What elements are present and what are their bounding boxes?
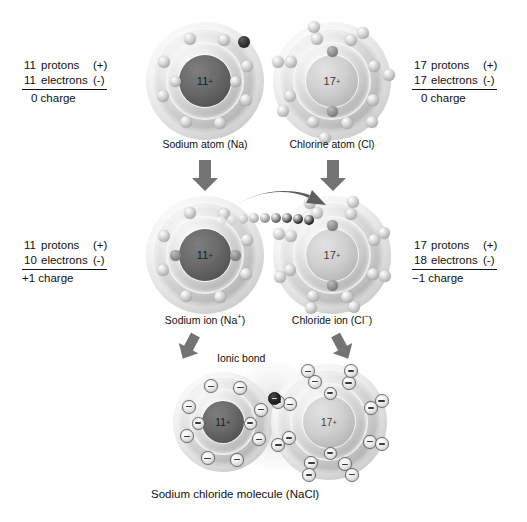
sodium-ion-electrons-sign: (-) [93, 253, 105, 268]
sodium-atom-protons-word: protons [41, 58, 93, 73]
sodium-atom-caption: Sodium atom (Na) [135, 138, 275, 150]
chlorine-atom-protons-count: 17 [414, 58, 431, 73]
electron-transfer-arrow [222, 186, 332, 226]
electron [272, 56, 284, 68]
sodium-ion-protons-count: 11 [24, 238, 41, 253]
electron [192, 417, 205, 430]
chlorine-atom-protons-word: protons [431, 58, 483, 73]
electron [342, 376, 356, 390]
electron [230, 250, 241, 261]
electron [241, 234, 253, 246]
electron [182, 400, 196, 414]
sodium-nucleus: 11+ [179, 55, 231, 107]
chloride-ion-charge: −1 charge [412, 270, 497, 286]
electron [357, 27, 369, 39]
chloride-ion-electrons-count: 18 [414, 253, 431, 268]
sodium-atom-stats: 11 protons (+) 11 electrons (-) 0 charge [22, 58, 107, 106]
sodium-atom-protons-count: 11 [24, 58, 41, 73]
transferred-electron [268, 392, 281, 405]
electron [170, 250, 181, 261]
chlorine-atom-charge: 0 charge [412, 90, 497, 106]
chlorine-nucleus-number: 17 [323, 75, 336, 87]
diagram-canvas: 11 protons (+) 11 electrons (-) 0 charge… [0, 0, 527, 522]
sodium-ion-caption: Sodium ion (Na+) [135, 312, 275, 326]
sodium-ion-nucleus: 11+ [179, 229, 231, 281]
electron [201, 451, 215, 465]
electron [307, 116, 319, 128]
electron [378, 227, 390, 239]
sodium-atom-protons-sign: (+) [93, 58, 107, 73]
electron [184, 207, 196, 219]
electron [240, 94, 252, 106]
chlorine-atom-electrons-word: electrons [431, 73, 483, 88]
electron [230, 453, 244, 467]
electron [327, 46, 338, 57]
electron [367, 94, 379, 106]
chloride-ion-caption: Chloride ion (Cl−) [262, 312, 402, 326]
electron [238, 36, 250, 48]
chloride-ion-electrons-word: electrons [431, 253, 483, 268]
electron [240, 268, 252, 280]
molecule-caption: Sodium chloride molecule (NaCl) [151, 488, 319, 500]
chloride-ion-nucleus: 17+ [306, 229, 358, 281]
chlorine-atom-electrons-sign: (-) [483, 73, 495, 88]
electron [277, 105, 289, 117]
chloride-ion-electrons-sign: (-) [483, 253, 495, 268]
electron [345, 468, 359, 482]
nacl-sodium-nucleus: 11+ [202, 401, 244, 443]
electron [327, 280, 338, 291]
sodium-atom-model: 11+ [146, 22, 264, 140]
ionic-bond-label: Ionic bond [217, 352, 265, 364]
electron [375, 394, 389, 408]
electron [324, 447, 337, 460]
sodium-nucleus-number: 11 [197, 75, 209, 87]
chloride-ion-nucleus-number: 17 [323, 249, 336, 261]
electron [302, 468, 316, 482]
electron [367, 268, 379, 280]
chloride-ion-stats: 17 protons (+) 18 electrons (-) −1 charg… [412, 238, 497, 286]
nacl-sodium-ion: 11+ [173, 372, 273, 472]
chlorine-atom-model: 17+ [273, 22, 391, 140]
chlorine-atom-caption: Chlorine atom (Cl) [262, 138, 402, 150]
electron [254, 403, 268, 417]
electron [170, 76, 181, 87]
electron [344, 364, 358, 378]
electron [274, 271, 286, 283]
electron [324, 387, 337, 400]
sodium-ion-charge: +1 charge [22, 270, 107, 286]
sodium-atom-charge: 0 charge [22, 90, 107, 106]
electron [308, 21, 320, 33]
chloride-ion-protons-count: 17 [414, 238, 431, 253]
electron [230, 76, 241, 87]
electron [307, 290, 319, 302]
electron [244, 417, 257, 430]
electron [375, 437, 389, 451]
nacl-chloride-ion: 17+ [271, 364, 387, 480]
electron [180, 290, 192, 302]
electron [383, 69, 395, 81]
electron [311, 33, 323, 45]
electron [204, 379, 218, 393]
chloride-ion-protons-word: protons [431, 238, 483, 253]
chlorine-atom-stats: 17 protons (+) 17 electrons (-) 0 charge [412, 58, 497, 106]
electron [368, 60, 380, 72]
electron [184, 33, 196, 45]
electron [273, 228, 285, 240]
arrow-sodium-to-molecule [169, 329, 207, 369]
chlorine-atom-protons-sign: (+) [483, 58, 497, 73]
sodium-ion-protons-sign: (+) [93, 238, 107, 253]
electron [327, 106, 338, 117]
sodium-ion-protons-word: protons [41, 238, 93, 253]
chloride-ion-protons-sign: (+) [483, 238, 497, 253]
sodium-ion-nucleus-charge: + [209, 251, 214, 260]
chlorine-atom-electrons-count: 17 [414, 73, 431, 88]
chlorine-nucleus: 17+ [306, 55, 358, 107]
chloride-ion-nucleus-charge: + [336, 251, 341, 260]
sodium-atom-electrons-word: electrons [41, 73, 93, 88]
arrow-sodium-down [190, 160, 220, 196]
electron [366, 116, 378, 128]
sodium-atom-electrons-count: 11 [24, 73, 41, 88]
electron [180, 116, 192, 128]
sodium-ion-nucleus-number: 11 [197, 249, 209, 261]
chlorine-nucleus-charge: + [336, 77, 341, 86]
